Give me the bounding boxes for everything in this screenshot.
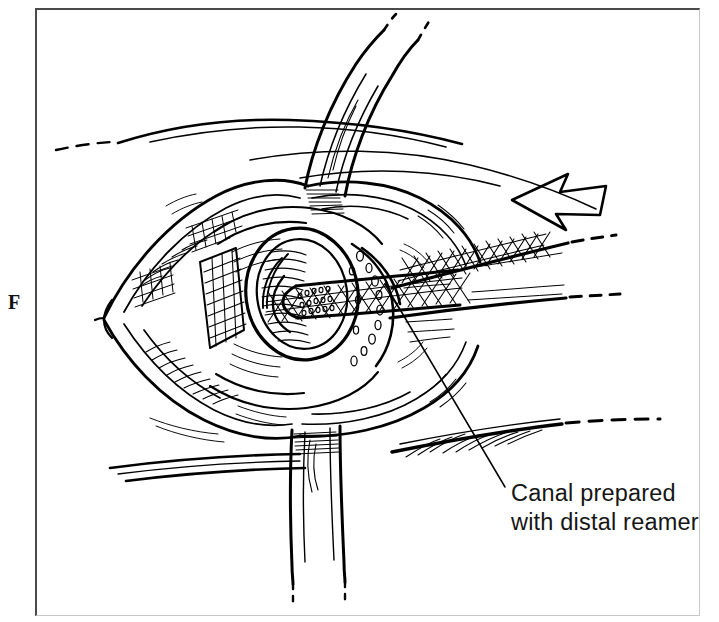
panel-letter-label: F bbox=[8, 292, 20, 312]
figure-frame bbox=[35, 8, 700, 616]
figure-page: F bbox=[0, 0, 719, 622]
